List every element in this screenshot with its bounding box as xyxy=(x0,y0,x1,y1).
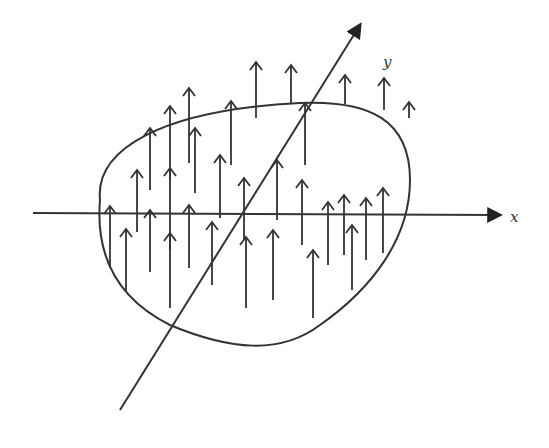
vector-arrow xyxy=(285,65,297,104)
vector-arrow xyxy=(339,75,351,104)
vector-arrow xyxy=(183,88,195,163)
vector-arrow xyxy=(214,155,226,218)
vector-arrow xyxy=(206,222,218,285)
region-boundary xyxy=(99,103,410,346)
vector-arrow xyxy=(360,198,372,260)
vector-arrow xyxy=(120,229,132,292)
vector-arrow xyxy=(377,188,389,253)
vector-arrow xyxy=(322,202,334,265)
vector-arrow xyxy=(189,128,201,193)
vector-arrow xyxy=(267,230,279,300)
vector-arrow xyxy=(271,160,283,220)
vector-arrow xyxy=(403,102,415,118)
vector-arrow xyxy=(250,62,262,118)
vector-arrow xyxy=(144,210,156,272)
x-axis xyxy=(33,213,500,215)
vector-arrow xyxy=(240,237,252,308)
vector-arrow xyxy=(307,250,319,318)
vector-field-diagram: x y xyxy=(0,0,549,448)
vector-arrow xyxy=(131,170,143,232)
vector-arrow xyxy=(144,128,156,190)
vector-arrow xyxy=(378,78,390,110)
x-axis-label: x xyxy=(510,208,519,226)
vector-arrow xyxy=(296,180,308,245)
vector-arrow xyxy=(338,195,350,255)
vector-arrow xyxy=(346,225,358,290)
y-axis-label: y xyxy=(382,53,392,71)
vector-arrow xyxy=(238,178,250,240)
vector-arrows xyxy=(104,62,415,318)
vector-arrow xyxy=(164,233,176,308)
vector-arrow xyxy=(164,106,176,180)
